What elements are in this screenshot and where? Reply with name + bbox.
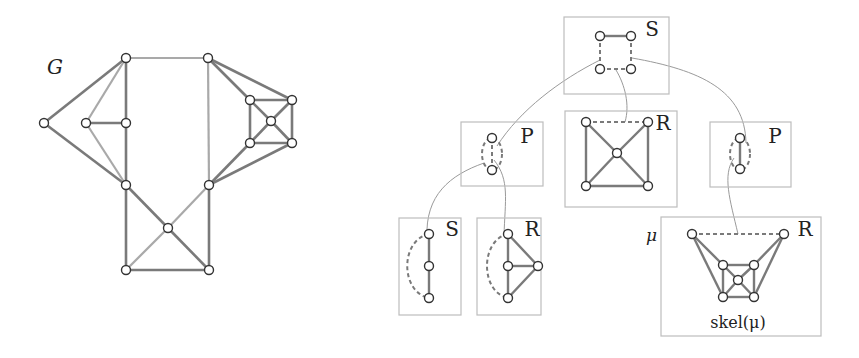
real-edge <box>617 122 648 153</box>
vertex-node <box>644 118 653 127</box>
real-edge <box>508 266 538 298</box>
vertex-node <box>246 96 255 105</box>
node-type-label: R <box>524 217 540 241</box>
skeleton-box-r-bottom-small: R <box>477 217 543 315</box>
node-type-label: R <box>797 217 813 241</box>
vertex-node <box>627 32 636 41</box>
vertex-node <box>736 165 745 174</box>
node-type-label: P <box>520 124 533 148</box>
graph-edge <box>209 143 292 185</box>
graph-edge <box>86 58 126 123</box>
skeleton-box-s-bottom: S <box>399 217 461 315</box>
node-type-label: R <box>655 111 671 135</box>
spqr-tree: SPRPSRR <box>399 17 821 336</box>
real-edge <box>586 153 617 186</box>
vertex-node <box>596 32 605 41</box>
real-edge <box>586 122 617 153</box>
vertex-node <box>613 149 622 158</box>
vertex-node <box>644 182 653 191</box>
graph-g-label: G <box>47 55 63 79</box>
vertex-node <box>425 230 434 239</box>
tree-connector <box>497 60 600 146</box>
real-edge <box>692 234 723 265</box>
graph-edge <box>126 185 168 228</box>
vertex-node <box>40 119 49 128</box>
real-edge <box>617 153 648 186</box>
vertex-node <box>596 65 605 74</box>
vertex-node <box>205 181 214 190</box>
diagram-canvas: G SPRPSRR μ skel(μ) <box>0 0 859 358</box>
vertex-node <box>425 294 434 303</box>
skeleton-box-p-right: P <box>710 122 791 187</box>
vertex-node <box>267 117 276 126</box>
vertex-node <box>488 134 497 143</box>
graph-g <box>40 54 297 275</box>
node-type-label: S <box>445 217 459 241</box>
vertex-node <box>719 261 728 270</box>
vertex-node <box>534 262 543 271</box>
skeleton-box-p-left: P <box>461 122 543 186</box>
vertex-node <box>504 230 513 239</box>
graph-edge <box>168 228 209 270</box>
real-edge <box>754 234 784 265</box>
vertex-node <box>246 139 255 148</box>
graph-edge <box>209 143 250 185</box>
graph-edge <box>208 58 292 100</box>
node-type-label: P <box>768 124 781 148</box>
vertex-node <box>734 276 743 285</box>
vertex-node <box>736 134 745 143</box>
vertex-node <box>780 230 789 239</box>
vertex-node <box>582 118 591 127</box>
vertex-node <box>750 293 759 302</box>
vertex-node <box>122 266 131 275</box>
graph-edge <box>126 228 168 270</box>
vertex-node <box>750 261 759 270</box>
vertex-node <box>288 96 297 105</box>
vertex-node <box>122 181 131 190</box>
vertex-node <box>504 294 513 303</box>
tree-connector <box>616 70 627 122</box>
graph-edge <box>86 123 126 185</box>
vertex-node <box>627 65 636 74</box>
graph-edge <box>44 123 126 185</box>
node-type-label: S <box>645 17 659 41</box>
skel-mu-label: skel(μ) <box>710 313 765 332</box>
vertex-node <box>582 182 591 191</box>
skeleton-box-root-s: S <box>564 17 669 94</box>
graph-edge <box>168 185 209 228</box>
vertex-node <box>122 119 131 128</box>
vertex-node <box>288 139 297 148</box>
skeleton-box-r-mid: R <box>565 111 677 207</box>
vertex-node <box>204 54 213 63</box>
vertex-node <box>425 262 434 271</box>
mu-label: μ <box>646 225 657 245</box>
vertex-node <box>488 166 497 175</box>
vertex-node <box>205 266 214 275</box>
vertex-node <box>82 119 91 128</box>
graph-edge <box>208 58 209 185</box>
graph-edge <box>208 58 250 100</box>
vertex-node <box>122 54 131 63</box>
vertex-node <box>164 224 173 233</box>
vertex-node <box>719 293 728 302</box>
vertex-node <box>688 230 697 239</box>
vertex-node <box>504 262 513 271</box>
